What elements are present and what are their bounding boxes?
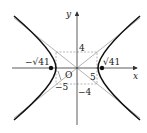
origin-label: O	[65, 70, 72, 80]
label-focus-left: −√41	[25, 57, 50, 67]
label-left-a: −5	[55, 82, 69, 92]
hyperbola-diagram: y x O 4 −4 5 −5 √41 −√41	[0, 0, 147, 133]
y-axis-label: y	[65, 9, 72, 19]
label-bottom: −4	[78, 87, 92, 97]
leader-line	[58, 71, 61, 80]
x-axis-label: x	[133, 71, 138, 81]
label-right-a: 5	[90, 72, 96, 82]
label-top: 4	[79, 43, 85, 53]
label-focus-right: √41	[103, 57, 120, 67]
